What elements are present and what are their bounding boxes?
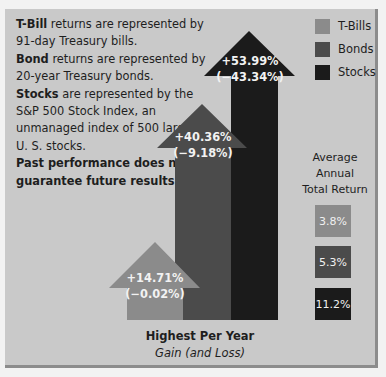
legend-item-bonds: Bonds [315,38,376,60]
tbills-arrow-label: +14.71% (−0.02%) [117,270,193,302]
avg-return-stocks: 11.2% [315,288,351,320]
legend-label: T-Bills [338,19,371,33]
avg-title-line: Total Return [296,182,374,198]
x-axis-subtitle: Gain (and Loss) [110,345,290,362]
tbills-loss: (−0.02%) [117,286,193,302]
x-axis-title: Highest Per Year [110,328,290,345]
average-return-title: Average Annual Total Return [296,150,374,198]
stocks-arrow-label: +53.99% (−43.34%) [212,53,288,85]
stocks-loss: (−43.34%) [212,69,288,85]
stocks-gain: +53.99% [212,53,288,69]
bonds-loss: (−9.18%) [165,145,241,161]
legend-label: Bonds [338,42,374,56]
avg-return-bonds: 5.3% [315,246,351,278]
tbills-swatch [315,19,330,34]
bonds-swatch [315,42,330,57]
bonds-gain: +40.36% [165,129,241,145]
legend-item-tbills: T-Bills [315,15,376,37]
avg-return-tbills: 3.8% [315,205,351,237]
legend-label: Stocks [338,65,376,79]
legend-item-stocks: Stocks [315,61,376,83]
x-axis-label: Highest Per Year Gain (and Loss) [110,328,290,362]
avg-title-line: Annual [296,166,374,182]
stocks-swatch [315,65,330,80]
legend: T-Bills Bonds Stocks [315,15,376,84]
tbills-gain: +14.71% [117,270,193,286]
avg-title-line: Average [296,150,374,166]
bonds-arrow-label: +40.36% (−9.18%) [165,129,241,161]
